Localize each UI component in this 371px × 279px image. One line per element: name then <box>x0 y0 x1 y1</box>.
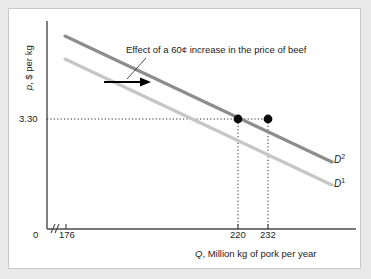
annotation-text: Effect of a 60¢ increase in the price of… <box>126 45 306 55</box>
curve-label-d1: D1 <box>334 177 345 189</box>
curve-label-d2: D2 <box>334 153 345 165</box>
x-tick-label-0: 0 <box>33 230 38 240</box>
data-point-q220 <box>234 115 243 124</box>
curve-label-d1-superscript: 1 <box>341 177 345 184</box>
annotation-leader-line <box>127 58 146 79</box>
x-axis-label-units: , Million kg of pork per year <box>202 248 316 259</box>
data-point-q232 <box>264 115 273 124</box>
x-tick-label-176: 176 <box>59 230 75 240</box>
y-tick-label-330: 3.30 <box>19 114 38 124</box>
x-axis-label: Q, Million kg of pork per year <box>195 249 316 259</box>
x-tick-label-232: 232 <box>260 230 276 240</box>
curve-label-d2-superscript: 2 <box>341 153 345 160</box>
y-axis-label: p, $ per kg <box>24 26 34 110</box>
demand-curve-d1 <box>65 59 332 185</box>
y-axis-label-units: , $ per kg <box>23 45 34 85</box>
y-axis-label-symbol: p <box>23 85 34 90</box>
figure-panel: p, $ per kg Q, Million kg of pork per ye… <box>8 8 361 269</box>
x-tick-label-220: 220 <box>230 230 246 240</box>
